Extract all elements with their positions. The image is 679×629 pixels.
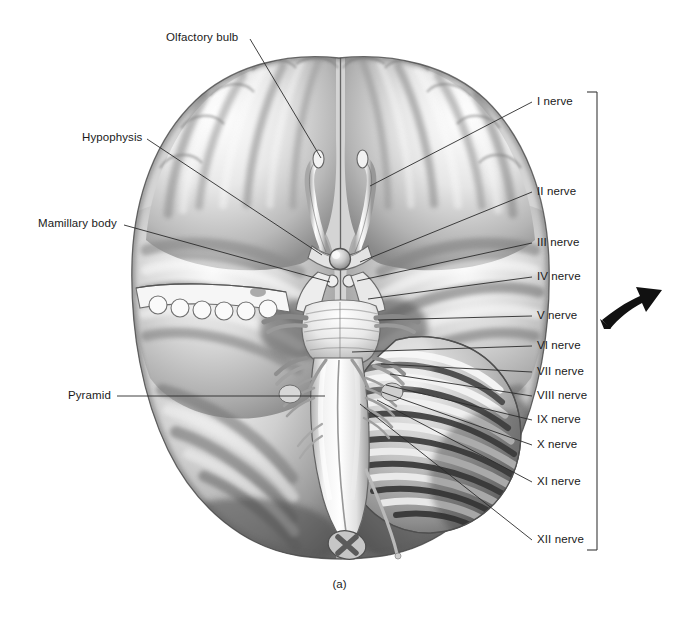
olfactory-bulb-left	[313, 150, 324, 168]
label-nerve-vi: VI nerve	[537, 340, 581, 352]
label-nerve-iii: III nerve	[537, 237, 579, 249]
figure-caption: (a)	[0, 578, 679, 590]
label-nerve-xii: XII nerve	[537, 534, 584, 546]
label-pyramid: Pyramid	[68, 390, 111, 402]
label-nerve-i: I nerve	[537, 96, 573, 108]
label-nerve-x: X nerve	[537, 439, 577, 451]
hypophysis	[330, 249, 351, 270]
cranial-nerve-bracket	[587, 92, 597, 550]
label-mamillary-body: Mamillary body	[38, 218, 117, 230]
label-nerve-iv: IV nerve	[537, 271, 581, 283]
label-olfactory-bulb: Olfactory bulb	[166, 32, 238, 44]
label-nerve-ii: II nerve	[537, 186, 576, 198]
olfactory-bulb-right	[357, 150, 368, 168]
label-nerve-v: V nerve	[537, 310, 577, 322]
label-hypophysis: Hypophysis	[82, 132, 142, 144]
anatomy-figure: Olfactory bulbHypophysisMamillary bodyPy…	[0, 0, 679, 629]
label-nerve-vii: VII nerve	[537, 366, 584, 378]
pons	[302, 300, 380, 367]
label-nerve-ix: IX nerve	[537, 414, 581, 426]
label-nerve-xi: XI nerve	[537, 476, 581, 488]
label-nerve-viii: VIII nerve	[537, 390, 587, 402]
direction-arrow	[600, 287, 662, 329]
